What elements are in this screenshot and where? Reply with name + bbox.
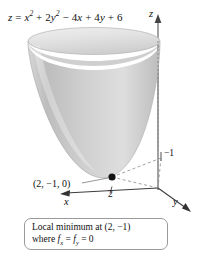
caption-box: Local minimum at (2, −1) where fx = fy =… xyxy=(24,218,168,250)
dashed-projection-to-origin xyxy=(112,177,158,188)
caption-line-2: where fx = fy = 0 xyxy=(32,234,161,246)
caption-where-word: where xyxy=(32,234,58,244)
z-axis-label: z xyxy=(149,8,153,19)
caption-equals-zero: = 0 xyxy=(79,234,94,244)
x-tick-label-2: 2 xyxy=(108,189,113,199)
surface-equation-label: z = x2 + 2y2 − 4x + 4y + 6 xyxy=(8,11,123,23)
paraboloid-figure: z = x2 + 2y2 − 4x + 4y + 6 z x y 2 −1 (2… xyxy=(0,0,202,257)
critical-point-dot xyxy=(108,173,115,180)
y-axis-line xyxy=(158,188,186,208)
caption-line-1: Local minimum at (2, −1) xyxy=(32,222,161,234)
point-leader-line xyxy=(82,178,108,183)
y-axis-arrowhead xyxy=(182,203,191,212)
y-axis-label: y xyxy=(173,196,178,207)
z-axis-arrowhead xyxy=(155,14,162,23)
caption-equals-1: = xyxy=(63,234,73,244)
critical-point-coordinate-label: (2, −1, 0) xyxy=(33,178,70,189)
x-axis-label: x xyxy=(64,196,69,207)
y-tick-label-minus-1: −1 xyxy=(164,148,174,158)
